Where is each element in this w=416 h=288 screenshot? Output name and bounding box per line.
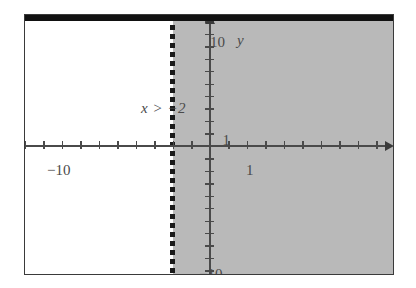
y-axis-name-label: y: [237, 33, 244, 48]
x-tick: [191, 141, 192, 149]
x-tick: [321, 141, 322, 149]
x-axis-arrow-icon: [385, 141, 394, 151]
x-tick: [154, 141, 155, 149]
x-axis-line: [25, 145, 387, 147]
x-tick: [43, 141, 44, 149]
x-tick: [376, 141, 377, 149]
x-tick: [80, 141, 81, 149]
y-tick: [205, 158, 214, 159]
plot-frame: 10 y 1 −10 −10 1 10 x x > −2: [24, 14, 394, 275]
y-tick: [205, 196, 214, 197]
y-axis-label-negative-10: −10: [199, 267, 222, 275]
x-axis-label-negative-10: −10: [47, 163, 70, 178]
y-axis-label-1: 1: [216, 133, 230, 148]
y-tick: [205, 96, 214, 97]
x-tick: [247, 141, 248, 149]
x-tick: [25, 141, 26, 149]
x-tick: [99, 141, 100, 149]
x-tick: [62, 141, 63, 149]
x-tick: [136, 141, 137, 149]
inequality-annotation: x > −2: [141, 101, 186, 116]
x-tick: [284, 141, 285, 149]
y-tick: [205, 258, 214, 259]
x-tick: [358, 141, 359, 149]
x-tick: [117, 141, 118, 149]
x-axis-label-1: 1: [246, 163, 254, 178]
x-tick: [302, 141, 303, 149]
y-tick: [205, 84, 214, 85]
y-tick: [205, 108, 214, 109]
top-black-bar: [25, 15, 394, 21]
y-tick: [205, 133, 214, 134]
y-tick: [205, 183, 214, 184]
y-tick: [205, 233, 214, 234]
y-tick: [205, 121, 214, 122]
x-tick: [265, 141, 266, 149]
y-axis-label-10: 10: [201, 35, 225, 50]
y-tick: [205, 221, 214, 222]
y-tick: [205, 208, 214, 209]
y-tick: [205, 59, 214, 60]
inequality-graph-figure: 10 y 1 −10 −10 1 10 x x > −2: [0, 0, 416, 288]
x-tick: [173, 141, 174, 149]
y-tick: [205, 171, 214, 172]
x-tick: [339, 141, 340, 149]
y-tick: [205, 71, 214, 72]
y-tick: [205, 245, 214, 246]
